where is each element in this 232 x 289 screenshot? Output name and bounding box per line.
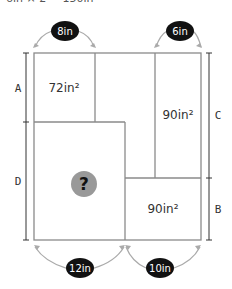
area-puzzle-diagram: 6in × 2 = 150in <box>0 0 232 289</box>
dimension-badge-bottom-left: 12in <box>66 258 94 278</box>
unknown-area-question-icon: ? <box>71 171 97 197</box>
side-label-b: B <box>215 203 222 216</box>
dimension-badge-top-left: 8in <box>51 21 79 41</box>
side-label-d: D <box>15 175 22 188</box>
side-label-c: C <box>215 109 222 122</box>
diagram-lines <box>0 0 232 289</box>
dimension-badge-top-right: 6in <box>166 21 194 41</box>
area-label-bottom-right: 90in² <box>147 202 178 216</box>
area-label-right-tall: 90in² <box>162 108 193 122</box>
area-label-top-left: 72in² <box>48 81 79 95</box>
dimension-badge-bottom-right: 10in <box>146 258 174 278</box>
side-label-a: A <box>15 82 22 95</box>
